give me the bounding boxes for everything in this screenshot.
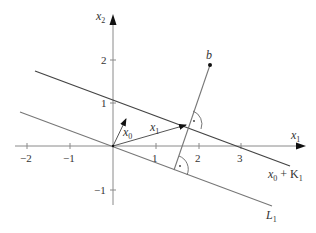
y-tick-2: 2 bbox=[101, 54, 107, 66]
y-axis-label: x2 bbox=[95, 9, 105, 25]
origin-point bbox=[112, 145, 114, 147]
right-angle-marker-upper bbox=[193, 111, 202, 129]
vector-x0-label: x0 bbox=[122, 125, 132, 141]
y-tick-neg1: −1 bbox=[94, 184, 106, 196]
vector-x1-label: x1 bbox=[149, 120, 159, 136]
affine-line-label: x0 + K1 bbox=[267, 167, 303, 183]
x-tick-neg1: −1 bbox=[63, 152, 75, 164]
y-axis: 2 1 −1 x2 bbox=[94, 9, 117, 205]
point-b-label: b bbox=[206, 48, 212, 62]
x-tick-3: 3 bbox=[237, 152, 243, 164]
perpendicular-line bbox=[174, 65, 210, 170]
point-b bbox=[208, 63, 212, 67]
x-tick-neg2: −2 bbox=[20, 152, 32, 164]
affine-projection-diagram: −2 −1 1 2 3 x1 2 1 −1 x2 x0 + K1 L1 b x0 bbox=[0, 0, 316, 233]
x-axis-label: x1 bbox=[290, 128, 300, 144]
y-axis-arrow-icon bbox=[110, 14, 117, 25]
subspace-line-label: L1 bbox=[265, 208, 277, 224]
subspace-line-l1 bbox=[20, 112, 272, 206]
x-axis: −2 −1 1 2 3 x1 bbox=[15, 128, 306, 164]
y-tick-1: 1 bbox=[101, 97, 107, 109]
x-tick-2: 2 bbox=[195, 152, 201, 164]
